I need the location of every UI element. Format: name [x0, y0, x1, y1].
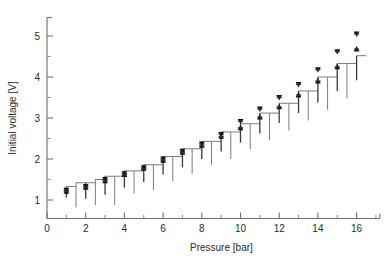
- y-tick-label: 3: [34, 113, 40, 124]
- x-tick-label: 10: [235, 223, 247, 234]
- data-marker-group: [64, 32, 360, 194]
- axes-group: [47, 18, 380, 219]
- x-tick-label: 0: [44, 223, 50, 234]
- y-tick-label: 1: [34, 195, 40, 206]
- x-axis-title: Pressure [bar]: [190, 242, 253, 253]
- y-tick-label: 2: [34, 154, 40, 165]
- x-tick-label: 16: [351, 223, 363, 234]
- x-tick-label: 6: [160, 223, 166, 234]
- x-tick-label: 14: [312, 223, 324, 234]
- x-tick-label: 4: [122, 223, 128, 234]
- y-tick-label: 5: [34, 31, 40, 42]
- x-tick-label: 2: [83, 223, 89, 234]
- plot-area: [64, 32, 367, 208]
- x-tick-label: 8: [199, 223, 205, 234]
- y-axis-title: Initial voltage [V]: [7, 81, 18, 155]
- errorbar-group: [66, 56, 366, 208]
- y-tick-label: 4: [34, 72, 40, 83]
- chart-figure: 123450246810121416Pressure [bar]Initial …: [0, 0, 387, 272]
- axis-labels-group: 123450246810121416Pressure [bar]Initial …: [7, 31, 363, 254]
- x-tick-label: 12: [274, 223, 286, 234]
